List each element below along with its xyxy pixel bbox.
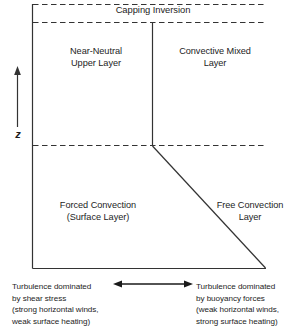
z-axis-label: z — [10, 129, 26, 141]
region-label-convective-mixed-layer: Convective Mixed Layer — [163, 46, 267, 69]
regime-transition-arrowhead-right-icon — [184, 280, 193, 287]
region-label-near-neutral-upper-layer: Near-Neutral Upper Layer — [48, 46, 144, 69]
z-axis-arrowhead-icon — [14, 66, 21, 75]
diagram-canvas: Capping Inversion Near-Neutral Upper Lay… — [0, 0, 306, 330]
caption-buoyancy-dominated-turbulence: Turbulence dominated by buoyancy forces … — [196, 281, 302, 327]
caption-shear-dominated-turbulence: Turbulence dominated by shear stress (st… — [12, 281, 116, 327]
region-label-free-convection-layer: Free Convection Layer — [200, 200, 300, 223]
region-label-forced-convection-surface-layer: Forced Convection (Surface Layer) — [44, 200, 152, 223]
capping-inversion-label: Capping Inversion — [108, 4, 198, 16]
